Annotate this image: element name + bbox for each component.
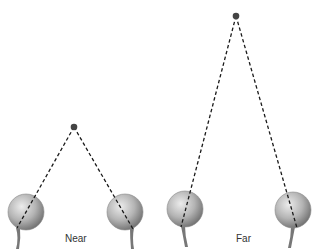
near-fixation-point bbox=[71, 124, 78, 131]
far-fixation-point bbox=[233, 13, 240, 20]
convergence-diagram bbox=[0, 0, 319, 252]
sight-lines bbox=[17, 16, 297, 229]
near-left-optic-nerve bbox=[16, 228, 20, 249]
near-right-optic-nerve bbox=[130, 228, 134, 249]
far-right-eyeball bbox=[275, 192, 311, 228]
far-left-eyeball bbox=[167, 191, 203, 227]
far-left-sight-line bbox=[181, 16, 236, 227]
far-label: Far bbox=[236, 233, 251, 245]
near-label: Near bbox=[65, 233, 87, 245]
far-left-optic-nerve bbox=[181, 226, 188, 247]
far-right-optic-nerve bbox=[288, 227, 295, 248]
eyeballs bbox=[8, 191, 311, 230]
fixation-points bbox=[71, 13, 240, 131]
near-left-sight-line bbox=[17, 127, 74, 228]
near-right-eyeball bbox=[107, 194, 143, 230]
far-right-sight-line bbox=[236, 16, 297, 228]
optic-nerves bbox=[16, 226, 295, 249]
